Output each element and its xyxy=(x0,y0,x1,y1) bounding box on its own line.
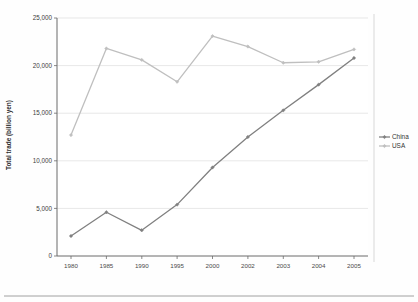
y-tick-label: 20,000 xyxy=(33,62,53,69)
x-axis-ticks: 198019851990199520002002200320042005 xyxy=(64,256,361,269)
line-chart: 05,00010,00015,00020,00025,000 198019851… xyxy=(0,0,418,302)
y-tick-label: 10,000 xyxy=(33,157,53,164)
x-tick-label: 1980 xyxy=(64,262,78,269)
legend-marker-china xyxy=(383,135,386,138)
y-tick-label: 5,000 xyxy=(36,205,52,212)
legend-label-usa: USA xyxy=(392,142,406,149)
chart-legend: ChinaUSA xyxy=(379,133,409,149)
x-tick-label: 2002 xyxy=(241,262,255,269)
y-tick-label: 25,000 xyxy=(33,14,53,21)
x-tick-label: 1995 xyxy=(170,262,184,269)
x-tick-label: 1985 xyxy=(100,262,114,269)
y-axis-ticks: 05,00010,00015,00020,00025,000 xyxy=(33,14,57,259)
x-tick-label: 2004 xyxy=(312,262,326,269)
legend-marker-usa xyxy=(383,144,386,147)
y-axis-title: Total trade (billion yen) xyxy=(5,100,13,170)
y-tick-label: 15,000 xyxy=(33,109,53,116)
legend-label-china: China xyxy=(392,133,409,140)
chart-figure: 05,00010,00015,00020,00025,000 198019851… xyxy=(0,0,418,302)
y-tick-label: 0 xyxy=(48,252,52,259)
x-tick-label: 2003 xyxy=(276,262,290,269)
x-tick-label: 2005 xyxy=(347,262,361,269)
x-tick-label: 2000 xyxy=(206,262,220,269)
x-tick-label: 1990 xyxy=(135,262,149,269)
